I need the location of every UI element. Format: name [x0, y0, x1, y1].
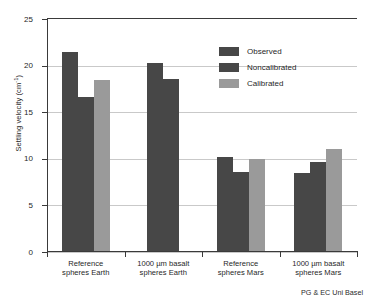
legend-item: Noncalibrated	[219, 60, 296, 74]
bar	[78, 97, 94, 251]
y-axis-tick-label: 10	[24, 154, 33, 163]
bar	[94, 80, 110, 251]
y-axis-tick-label: 20	[24, 61, 33, 70]
x-axis-tick	[357, 251, 358, 257]
x-axis-tick	[202, 251, 203, 257]
y-axis-title-superscript: -1	[13, 78, 19, 83]
legend-swatch	[219, 47, 239, 56]
footer-credit: PG & EC Uni Basel	[301, 288, 363, 297]
x-axis-category-label: 1000 µm basaltspheres Mars	[280, 259, 358, 278]
x-axis-category-label-line: spheres Earth	[125, 268, 203, 277]
bar	[326, 149, 342, 251]
bar	[163, 79, 179, 251]
bar	[147, 63, 163, 251]
x-axis-tick	[125, 251, 126, 257]
y-axis-tick-label: 0	[29, 248, 33, 257]
y-axis-tick-label: 25	[24, 15, 33, 24]
y-axis-title-text: Settling velocity (cm	[14, 83, 23, 152]
x-axis-category-label-line: Reference	[47, 259, 125, 268]
bar	[310, 162, 326, 251]
legend-swatch	[219, 63, 239, 72]
chart-legend: ObservedNoncalibratedCalibrated	[219, 44, 296, 92]
bar	[217, 157, 233, 251]
legend-label: Observed	[247, 47, 282, 56]
x-axis-category-label: 1000 µm basaltspheres Earth	[125, 259, 203, 278]
x-axis-category-label: Referencespheres Earth	[47, 259, 125, 278]
x-axis-category-label-line: spheres Earth	[47, 268, 125, 277]
y-axis-tick-label: 15	[24, 108, 33, 117]
bar	[233, 172, 249, 251]
x-axis-category-label-line: 1000 µm basalt	[125, 259, 203, 268]
chart-figure: Settling velocity (cm-1) 0510152025 Refe…	[0, 0, 373, 307]
legend-swatch	[219, 79, 239, 88]
x-axis-tick	[280, 251, 281, 257]
bar	[249, 159, 265, 251]
x-axis-category-label: Referencespheres Mars	[202, 259, 280, 278]
y-axis-tick-label: 5	[29, 201, 33, 210]
x-axis-category-label-line: spheres Mars	[280, 268, 358, 277]
bar	[294, 173, 310, 251]
x-axis-tick	[47, 251, 48, 257]
bar	[62, 52, 78, 251]
x-axis-category-label-line: Reference	[202, 259, 280, 268]
y-axis-title-suffix: )	[14, 75, 23, 78]
bars-layer	[47, 18, 357, 251]
y-axis-title: Settling velocity (cm-1)	[13, 23, 24, 203]
x-axis-category-label-line: spheres Mars	[202, 268, 280, 277]
legend-item: Observed	[219, 44, 296, 58]
x-axis-category-label-line: 1000 µm basalt	[280, 259, 358, 268]
legend-label: Calibrated	[247, 79, 283, 88]
legend-item: Calibrated	[219, 76, 296, 90]
legend-label: Noncalibrated	[247, 63, 296, 72]
